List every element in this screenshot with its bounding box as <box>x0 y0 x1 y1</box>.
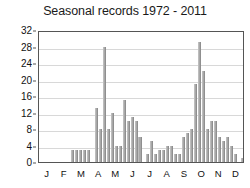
bar <box>178 154 181 162</box>
bar <box>182 137 185 162</box>
y-tick-mark <box>33 64 36 65</box>
bar <box>154 154 157 162</box>
bar <box>95 108 98 162</box>
bar <box>79 150 82 162</box>
y-tick-label: 16 <box>21 92 32 102</box>
bar <box>119 146 122 163</box>
y-tick-mark <box>33 31 36 32</box>
bar <box>198 42 201 162</box>
bar <box>111 113 114 163</box>
y-tick-label: 24 <box>21 59 32 69</box>
y-tick-mark <box>33 47 36 48</box>
bar <box>174 154 177 162</box>
x-tick-label-j-5: J <box>130 169 135 179</box>
y-tick-label: 12 <box>21 109 32 119</box>
bar <box>99 129 102 162</box>
bar <box>87 150 90 162</box>
bar <box>162 150 165 162</box>
bar <box>71 150 74 162</box>
bar <box>206 129 209 162</box>
y-tick-label: 20 <box>21 76 32 86</box>
bar <box>158 150 161 162</box>
y-tick-mark <box>33 113 36 114</box>
bar <box>214 121 217 162</box>
bar <box>166 146 169 163</box>
plot-area <box>38 31 244 163</box>
x-tick-label-s-8: S <box>181 169 187 179</box>
chart-container: Seasonal records 1972 - 2011 04812162024… <box>0 0 250 188</box>
bar <box>131 117 134 162</box>
bar <box>103 47 106 163</box>
y-tick-label: 28 <box>21 43 32 53</box>
bar <box>194 84 197 162</box>
chart-title: Seasonal records 1972 - 2011 <box>0 4 250 18</box>
x-tick-label-d-11: D <box>232 169 239 179</box>
bar <box>75 150 78 162</box>
x-tick-label-o-9: O <box>197 169 204 179</box>
x-tick-label-f-1: F <box>61 169 67 179</box>
x-axis: JFMAMJJASOND <box>38 164 244 186</box>
x-tick-label-a-7: A <box>164 169 170 179</box>
bar <box>210 121 213 162</box>
bar <box>123 100 126 162</box>
bar <box>170 146 173 163</box>
bar <box>202 71 205 162</box>
y-tick-mark <box>33 163 36 164</box>
bar <box>230 146 233 163</box>
bar <box>222 141 225 162</box>
y-tick-label: 32 <box>21 26 32 36</box>
y-tick-mark <box>33 130 36 131</box>
bar <box>150 141 153 162</box>
x-tick-label-j-6: J <box>147 169 152 179</box>
x-tick-label-m-4: M <box>111 169 119 179</box>
bar <box>127 121 130 162</box>
y-tick-label: 8 <box>26 125 32 135</box>
x-tick-label-n-10: N <box>215 169 222 179</box>
bar <box>83 150 86 162</box>
bar <box>241 158 244 162</box>
x-tick-label-m-2: M <box>77 169 85 179</box>
bar <box>186 133 189 162</box>
y-tick-mark <box>33 146 36 147</box>
bar <box>107 129 110 162</box>
bar <box>146 154 149 162</box>
x-tick-label-j-0: J <box>44 169 49 179</box>
bar <box>190 129 193 162</box>
bar <box>234 154 237 162</box>
bar <box>135 121 138 162</box>
bar <box>115 146 118 163</box>
bar <box>138 137 141 162</box>
bar-series <box>39 32 243 162</box>
y-axis: 048121620242832 <box>0 31 36 163</box>
bar <box>218 137 221 162</box>
y-tick-label: 4 <box>26 142 32 152</box>
y-tick-label: 0 <box>26 158 32 168</box>
y-tick-mark <box>33 80 36 81</box>
y-tick-mark <box>33 97 36 98</box>
bar <box>226 137 229 162</box>
x-tick-label-a-3: A <box>95 169 101 179</box>
